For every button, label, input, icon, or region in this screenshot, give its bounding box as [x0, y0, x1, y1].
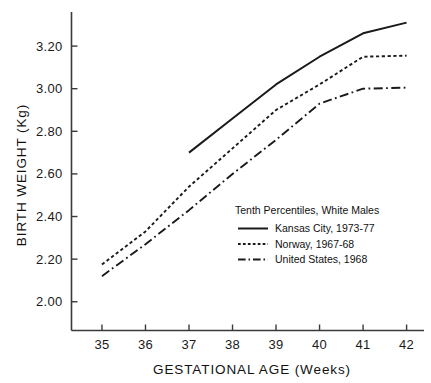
y-axis-group: 2.002.202.402.602.803.003.20: [36, 12, 78, 331]
legend-label-1: Norway, 1967-68: [275, 238, 354, 250]
y-axis-tick-labels: 2.002.202.402.602.803.003.20: [36, 39, 63, 310]
x-tick-label: 37: [181, 337, 196, 352]
chart-plot-area: 2.002.202.402.602.803.003.20 35363738394…: [0, 0, 431, 383]
y-tick-label: 2.40: [36, 209, 63, 224]
x-axis-title: GESTATIONAL AGE (Weeks): [153, 362, 351, 377]
y-axis-ticks: [72, 46, 78, 302]
y-tick-label: 2.20: [36, 252, 63, 267]
series-line-2: [102, 88, 407, 277]
legend-entry: United States, 1968: [238, 253, 367, 265]
legend-entries: Kansas City, 1973-77Norway, 1967-68Unite…: [238, 222, 375, 265]
y-tick-label: 2.60: [36, 166, 63, 181]
x-tick-label: 38: [225, 337, 240, 352]
x-axis-tick-labels: 3536373839404142: [94, 337, 414, 352]
legend-label-2: United States, 1968: [275, 253, 367, 265]
data-series-group: [102, 23, 407, 277]
legend-label-0: Kansas City, 1973-77: [275, 222, 375, 234]
x-tick-label: 41: [356, 337, 371, 352]
x-tick-label: 35: [94, 337, 109, 352]
y-tick-label: 3.00: [36, 81, 63, 96]
x-tick-label: 39: [269, 337, 284, 352]
y-tick-label: 2.80: [36, 124, 63, 139]
legend-entry: Kansas City, 1973-77: [238, 222, 375, 234]
x-axis-ticks: [102, 325, 407, 331]
x-axis-group: 3536373839404142: [72, 325, 425, 352]
y-tick-label: 3.20: [36, 39, 63, 54]
legend-title: Tenth Percentiles, White Males: [235, 204, 379, 216]
chart-legend: Tenth Percentiles, White Males Kansas Ci…: [235, 204, 379, 265]
x-tick-label: 36: [138, 337, 153, 352]
y-axis-title: BIRTH WEIGHT (Kg): [14, 104, 29, 246]
birth-weight-chart-figure: 2.002.202.402.602.803.003.20 35363738394…: [0, 0, 431, 383]
x-tick-label: 40: [312, 337, 327, 352]
y-tick-label: 2.00: [36, 294, 63, 309]
legend-entry: Norway, 1967-68: [238, 238, 354, 250]
x-tick-label: 42: [399, 337, 414, 352]
